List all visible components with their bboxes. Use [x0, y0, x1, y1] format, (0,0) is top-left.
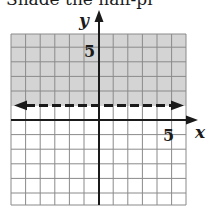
y-axis-label: y	[78, 10, 90, 30]
y-axis-arrow-icon	[95, 10, 104, 22]
coordinate-plane: y 5 5 x	[0, 0, 210, 212]
x-axis-label: x	[194, 122, 206, 142]
y-tick-label: 5	[84, 42, 95, 61]
x-tick-label: 5	[163, 126, 174, 145]
